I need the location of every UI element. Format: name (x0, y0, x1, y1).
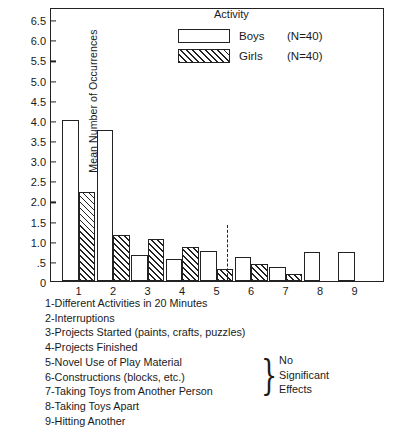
y-tick-mark (51, 202, 56, 203)
y-tick-mark (51, 81, 56, 82)
bar-girls-3 (148, 239, 165, 281)
bar-girls-6 (251, 264, 268, 281)
legend-title: Activity (214, 8, 378, 20)
y-tick-label: 4.5 (31, 96, 46, 108)
bar-boys-3 (131, 255, 148, 281)
brace-text-line: Significant (279, 368, 329, 383)
y-tick-mark (51, 101, 56, 102)
bar-boys-5 (200, 251, 217, 281)
y-tick-label: 2.0 (31, 196, 46, 208)
y-tick-label: 1.0 (31, 237, 46, 249)
caption-item: 7-Taking Toys from Another Person (45, 384, 395, 399)
caption-item: 9-Hitting Another (45, 414, 395, 429)
y-tick-label: .5 (37, 257, 46, 269)
caption-item: 3-Projects Started (paints, crafts, puzz… (45, 325, 395, 340)
caption-legend: 1-Different Activities in 20 Minutes2-In… (45, 296, 395, 428)
bar-boys-2 (97, 130, 114, 281)
legend-item-boys: Boys (N=40) (178, 29, 378, 43)
y-tick-label: 1.5 (31, 217, 46, 229)
bar-girls-1 (79, 192, 96, 281)
legend-n-boys: (N=40) (287, 30, 322, 42)
brace-text: NoSignificantEffects (279, 353, 329, 397)
caption-item: 4-Projects Finished (45, 340, 395, 355)
y-tick-label: 4.0 (31, 116, 46, 128)
y-tick-label: 5.0 (31, 76, 46, 88)
bar-girls-4 (182, 247, 199, 281)
y-tick-mark (51, 41, 56, 42)
brace-text-line: No (279, 353, 329, 368)
legend-n-girls: (N=40) (287, 50, 322, 62)
caption-item: 5-Novel Use of Play Material (45, 355, 395, 370)
legend-swatch-girls (178, 49, 230, 63)
bar-girls-7 (286, 274, 303, 281)
y-tick-label: 3.5 (31, 136, 46, 148)
no-significant-effects-annotation: } NoSignificantEffects (261, 353, 329, 397)
bar-boys-6 (235, 257, 252, 281)
legend-item-girls: Girls (N=40) (178, 49, 378, 63)
bar-girls-5 (217, 269, 234, 281)
y-tick-mark (51, 222, 56, 223)
caption-item: 2-Interruptions (45, 311, 395, 326)
y-tick-label: 2.5 (31, 176, 46, 188)
y-tick-mark (51, 262, 56, 263)
y-tick-mark (51, 182, 56, 183)
y-tick-label: 6.5 (31, 15, 46, 27)
y-tick-label: 5.5 (31, 55, 46, 67)
caption-item: 1-Different Activities in 20 Minutes (45, 296, 395, 311)
y-tick-label: 6.0 (31, 35, 46, 47)
y-tick-label: 0 (40, 277, 46, 289)
legend: Activity Boys (N=40) Girls (N=40) (178, 8, 378, 69)
bar-boys-1 (62, 120, 79, 281)
legend-label-boys: Boys (239, 30, 277, 42)
brace-icon: } (261, 355, 277, 396)
bar-boys-4 (166, 259, 183, 281)
caption-item-list: 1-Different Activities in 20 Minutes2-In… (45, 296, 395, 428)
legend-swatch-boys (178, 29, 230, 43)
y-tick-mark (51, 141, 56, 142)
y-tick-mark (51, 162, 56, 163)
brace-text-line: Effects (279, 382, 329, 397)
y-tick-mark (51, 121, 56, 122)
bar-boys-9 (338, 252, 355, 281)
significance-divider-line (227, 225, 228, 281)
legend-label-girls: Girls (239, 50, 277, 62)
bar-boys-7 (269, 267, 286, 281)
y-tick-label: 3.0 (31, 156, 46, 168)
bar-girls-2 (113, 235, 130, 281)
caption-item: 6-Constructions (blocks, etc.) (45, 370, 395, 385)
y-tick-mark (51, 61, 56, 62)
bar-boys-8 (304, 252, 321, 281)
y-tick-mark (51, 20, 56, 21)
y-tick-mark (51, 242, 56, 243)
caption-item: 8-Taking Toys Apart (45, 399, 395, 414)
